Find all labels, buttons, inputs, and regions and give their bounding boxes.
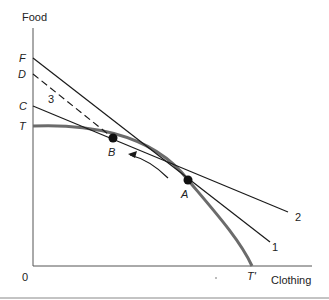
y-axis-label: Food	[22, 11, 47, 23]
label-line-2: 2	[295, 211, 301, 223]
label-f: F	[19, 52, 27, 64]
label-t-prime: T'	[247, 270, 257, 282]
x-axis-label: Clothing	[271, 274, 311, 286]
line-1	[33, 58, 270, 242]
origin-label: 0	[22, 271, 28, 283]
point-a	[184, 176, 193, 185]
point-b	[109, 134, 118, 143]
label-line-3: 3	[48, 93, 54, 105]
label-a: A	[180, 188, 188, 200]
label-b: B	[108, 146, 115, 158]
line-3-dashed	[33, 74, 113, 138]
label-t: T	[19, 120, 27, 132]
label-line-1: 1	[272, 241, 278, 253]
label-d: D	[18, 68, 26, 80]
label-c: C	[19, 100, 27, 112]
ppf-diagram: Food Clothing 0 F D C T T' B A 1 2 3	[0, 0, 329, 300]
ppf-curve	[33, 126, 252, 266]
line-2	[33, 106, 288, 212]
stray-dot	[215, 277, 217, 279]
